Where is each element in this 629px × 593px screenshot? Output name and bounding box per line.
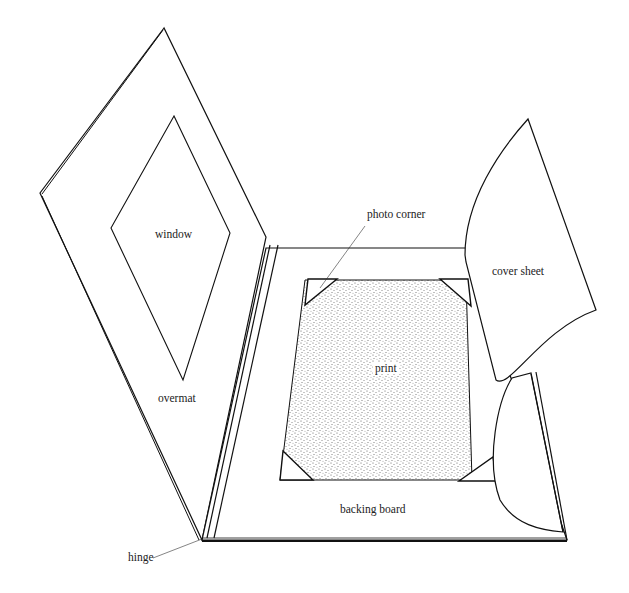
label-hinge: hinge [128,551,154,563]
label-cover-sheet: cover sheet [492,265,544,277]
label-photo-corner: photo corner [367,208,425,220]
folder-diagram [0,0,629,593]
label-overmat: overmat [158,392,196,404]
label-backing-board: backing board [340,503,405,515]
label-window: window [155,228,192,240]
hinge-leader [153,539,202,558]
print [280,280,472,480]
label-print: print [373,362,399,374]
